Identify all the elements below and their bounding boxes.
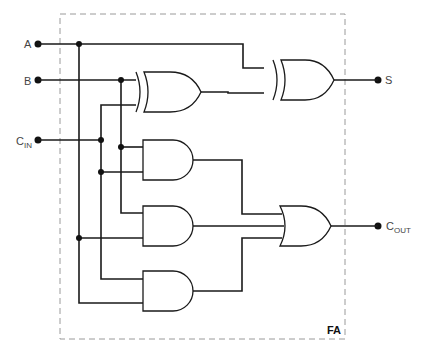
wire-cin	[38, 105, 148, 279]
wire-b	[38, 77, 148, 213]
and-gate-3	[143, 238, 282, 311]
output-label-cout: COUT	[386, 220, 411, 235]
input-label-a: A	[24, 38, 32, 50]
xor-gate-2	[273, 60, 378, 100]
output-label-s: S	[385, 74, 392, 86]
and-gate-2	[143, 206, 284, 246]
or-gate	[280, 206, 378, 246]
input-label-cin: CIN	[16, 135, 32, 150]
and-gate-1	[143, 140, 282, 214]
fa-block-label: FA	[327, 324, 341, 336]
input-label-b: B	[24, 75, 31, 87]
full-adder-diagram: FA A B CIN S COUT	[0, 0, 421, 358]
xor-gate-1	[136, 72, 264, 112]
